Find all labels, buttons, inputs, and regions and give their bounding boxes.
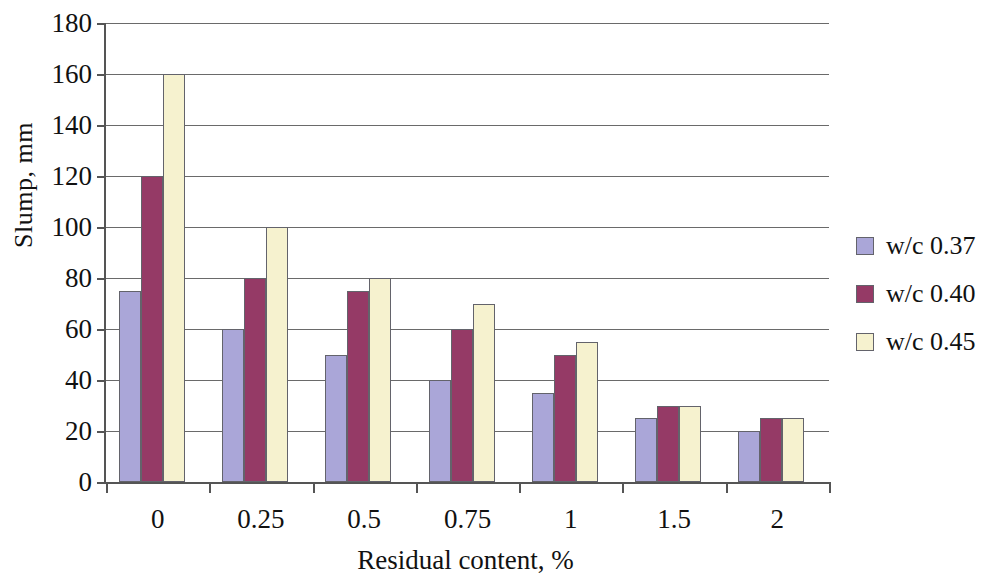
x-axis-tick-label: 0.25 — [237, 506, 284, 533]
y-axis-tick — [97, 227, 106, 229]
bar — [657, 406, 679, 483]
legend-swatch — [856, 285, 874, 303]
y-axis-tick — [97, 74, 106, 76]
y-axis-tick — [97, 329, 106, 331]
bar — [119, 291, 141, 482]
bar — [635, 418, 657, 482]
legend-swatch — [856, 333, 874, 351]
x-axis-tick — [313, 482, 315, 493]
legend-label: w/c 0.40 — [886, 281, 976, 307]
y-axis-tick-label: 180 — [52, 10, 93, 37]
x-axis-tick — [106, 482, 108, 493]
y-axis-tick — [97, 125, 106, 127]
x-axis-tick-label: 1 — [564, 506, 578, 533]
y-axis-tick — [97, 380, 106, 382]
x-axis-title: Residual content, % — [104, 545, 827, 576]
plot-area: 02040608010012014016018000.250.50.7511.5… — [104, 23, 829, 484]
x-axis-tick — [726, 482, 728, 493]
y-axis-tick-label: 120 — [52, 163, 93, 190]
y-axis-tick-label: 0 — [79, 469, 93, 496]
bar — [679, 406, 701, 483]
y-axis-tick-label: 20 — [65, 418, 92, 445]
y-axis-tick-label: 160 — [52, 61, 93, 88]
x-axis-tick-label: 2 — [771, 506, 785, 533]
legend: w/c 0.37w/c 0.40w/c 0.45 — [856, 222, 984, 366]
y-axis-tick — [97, 431, 106, 433]
legend-item: w/c 0.37 — [856, 222, 984, 270]
gridline — [106, 278, 829, 279]
gridline — [106, 176, 829, 177]
x-axis-tick — [416, 482, 418, 493]
bar — [369, 278, 391, 482]
bar — [738, 431, 760, 482]
bar — [347, 291, 369, 482]
x-axis-tick — [209, 482, 211, 493]
bar — [244, 278, 266, 482]
gridline — [106, 74, 829, 75]
legend-label: w/c 0.37 — [886, 233, 976, 259]
chart-figure: Slump, mm 02040608010012014016018000.250… — [0, 0, 984, 581]
bar — [473, 304, 495, 483]
legend-item: w/c 0.45 — [856, 318, 984, 366]
bar — [451, 329, 473, 482]
x-axis-tick-label: 0 — [151, 506, 165, 533]
x-axis-tick-label: 0.75 — [444, 506, 491, 533]
y-axis-tick-label: 80 — [65, 265, 92, 292]
y-axis-title: Slump, mm — [9, 75, 39, 295]
bar — [532, 393, 554, 482]
legend-label: w/c 0.45 — [886, 329, 976, 355]
y-axis-tick — [97, 482, 106, 484]
bar — [760, 418, 782, 482]
y-axis-tick — [97, 23, 106, 25]
x-axis-tick — [829, 482, 831, 493]
bar — [141, 176, 163, 482]
gridline — [106, 23, 829, 24]
bar — [554, 355, 576, 483]
bar — [325, 355, 347, 483]
bar — [576, 342, 598, 482]
legend-swatch — [856, 237, 874, 255]
y-axis-tick — [97, 278, 106, 280]
gridline — [106, 125, 829, 126]
x-axis-tick — [519, 482, 521, 493]
x-axis-tick-label: 1.5 — [657, 506, 691, 533]
bar — [163, 74, 185, 482]
x-axis-tick — [622, 482, 624, 493]
bar — [429, 380, 451, 482]
y-axis-tick — [97, 176, 106, 178]
y-axis-tick-label: 60 — [65, 316, 92, 343]
bar — [782, 418, 804, 482]
x-axis-tick-label: 0.5 — [347, 506, 381, 533]
legend-item: w/c 0.40 — [856, 270, 984, 318]
y-axis-tick-label: 140 — [52, 112, 93, 139]
bar — [266, 227, 288, 482]
bar — [222, 329, 244, 482]
gridline — [106, 227, 829, 228]
y-axis-tick-label: 40 — [65, 367, 92, 394]
y-axis-tick-label: 100 — [52, 214, 93, 241]
